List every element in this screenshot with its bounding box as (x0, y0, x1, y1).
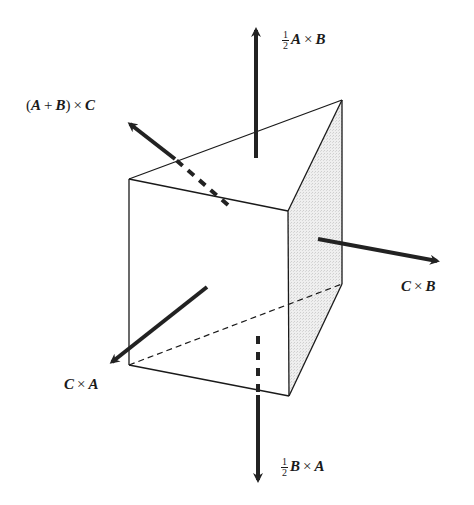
right-face (288, 100, 342, 396)
label-c-cross-b: C×B (401, 279, 436, 294)
label-a-plus-b-cross-c: (A+B)×C (26, 98, 95, 113)
arrow-front-normal (112, 287, 207, 362)
fraction-half: 12 (282, 30, 289, 51)
label-half-b-cross-a: 12B×A (281, 457, 325, 478)
label-c-cross-a: C×A (64, 377, 99, 392)
prism-diagram (0, 0, 474, 505)
arrow-back-normal (130, 124, 175, 159)
fraction-half: 12 (281, 457, 288, 478)
label-half-a-cross-b: 12A×B (282, 30, 326, 51)
arrow-back-normal-dashed (176, 160, 228, 205)
